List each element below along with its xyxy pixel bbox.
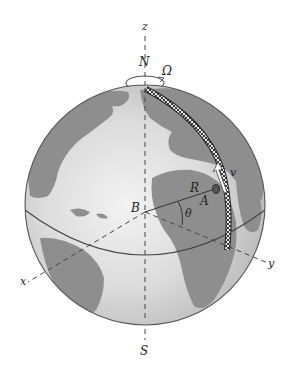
point-label: A — [199, 194, 209, 208]
center-label: B — [130, 201, 140, 215]
earth-rotation-diagram: z N Ω x y — [0, 0, 288, 371]
z-axis-label: z — [141, 20, 148, 33]
omega-label: Ω — [161, 64, 172, 78]
theta-label: θ — [185, 207, 192, 220]
slider-A — [213, 185, 220, 194]
velocity-label: v — [230, 166, 237, 179]
x-axis-label: x — [20, 275, 27, 288]
south-label: S — [140, 344, 148, 358]
radius-label: R — [189, 181, 199, 195]
north-label: N — [138, 55, 150, 69]
y-axis-label: y — [267, 257, 275, 270]
